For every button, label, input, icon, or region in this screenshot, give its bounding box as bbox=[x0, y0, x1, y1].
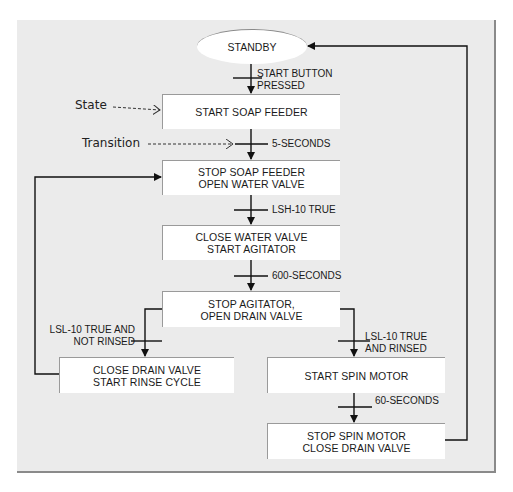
state-stop-spin-close-drain: STOP SPIN MOTOR CLOSE DRAIN VALVE bbox=[267, 423, 445, 459]
transition-line: START BUTTON bbox=[257, 68, 332, 80]
legend-transition-label: Transition bbox=[82, 136, 140, 150]
state-line: CLOSE WATER VALVE bbox=[195, 231, 307, 243]
transition-label-start-button: START BUTTON PRESSED bbox=[257, 68, 332, 92]
transition-line: LSL-10 TRUE bbox=[365, 331, 427, 343]
state-close-water-start-agitator: CLOSE WATER VALVE START AGITATOR bbox=[162, 225, 340, 260]
transition-line: PRESSED bbox=[257, 80, 332, 92]
state-line: START SOAP FEEDER bbox=[195, 106, 307, 118]
state-stop-soap-open-water: STOP SOAP FEEDER OPEN WATER VALVE bbox=[162, 160, 340, 195]
transition-line: NOT RINSED bbox=[48, 336, 135, 348]
state-line: START RINSE CYCLE bbox=[93, 376, 201, 388]
transition-label-not-rinsed: LSL-10 TRUE AND NOT RINSED bbox=[48, 324, 135, 348]
state-line: CLOSE DRAIN VALVE bbox=[302, 442, 410, 454]
state-line: OPEN WATER VALVE bbox=[198, 178, 304, 190]
transition-line: AND RINSED bbox=[365, 343, 427, 355]
state-line: STOP SPIN MOTOR bbox=[307, 430, 406, 442]
state-line: STOP SOAP FEEDER bbox=[198, 166, 305, 178]
legend-state-label: State bbox=[75, 98, 107, 112]
transition-line: 60-SECONDS bbox=[375, 395, 439, 406]
state-line: STOP AGITATOR, bbox=[208, 298, 295, 310]
state-line: START SPIN MOTOR bbox=[304, 370, 408, 382]
transition-line: LSH-10 TRUE bbox=[272, 204, 336, 215]
transition-label-lsh10: LSH-10 TRUE bbox=[272, 204, 336, 216]
transition-label-rinsed: LSL-10 TRUE AND RINSED bbox=[365, 331, 427, 355]
standby-state: STANDBY bbox=[197, 29, 307, 64]
state-line: CLOSE DRAIN VALVE bbox=[93, 364, 201, 376]
transition-line: 600-SECONDS bbox=[272, 270, 341, 281]
transition-label-60-seconds: 60-SECONDS bbox=[375, 395, 439, 407]
transition-label-600-seconds: 600-SECONDS bbox=[272, 270, 341, 282]
transition-line: LSL-10 TRUE AND bbox=[48, 324, 135, 336]
state-line: OPEN DRAIN VALVE bbox=[200, 310, 302, 322]
transition-line: 5-SECONDS bbox=[272, 138, 330, 149]
standby-label: STANDBY bbox=[228, 41, 277, 53]
state-start-soap-feeder: START SOAP FEEDER bbox=[162, 94, 340, 129]
transition-label-5-seconds: 5-SECONDS bbox=[272, 138, 330, 150]
state-stop-agitator-open-drain: STOP AGITATOR, OPEN DRAIN VALVE bbox=[162, 291, 340, 327]
state-line: START AGITATOR bbox=[207, 243, 296, 255]
state-close-drain-start-rinse: CLOSE DRAIN VALVE START RINSE CYCLE bbox=[59, 357, 234, 393]
state-start-spin-motor: START SPIN MOTOR bbox=[267, 357, 445, 393]
